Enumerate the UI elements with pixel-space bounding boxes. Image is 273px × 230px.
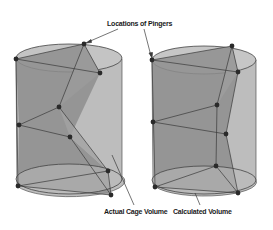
pinger-icon	[153, 185, 158, 190]
label-actual-cage-volume: Actual Cage Volume	[104, 208, 168, 216]
pinger-icon	[98, 71, 103, 76]
label-locations-of-pingers: Locations of Pingers	[107, 20, 173, 28]
pinger-icon	[151, 120, 156, 125]
pinger-icon	[236, 70, 241, 75]
pinger-icon	[106, 169, 111, 174]
pinger-icon	[214, 164, 219, 169]
left-cylinder-actual-cage	[14, 42, 125, 198]
pinger-icon	[16, 184, 21, 189]
pinger-icon	[17, 123, 22, 128]
arrowhead-icon	[86, 40, 92, 44]
arrowhead-icon	[149, 53, 153, 59]
pingers-arrow-left	[88, 29, 118, 42]
pinger-icon	[109, 193, 114, 198]
pinger-icon	[230, 44, 235, 49]
pinger-icon	[82, 42, 87, 47]
label-calculated-volume: Calculated Volume	[173, 208, 232, 215]
right-cylinder-calculated	[150, 44, 257, 196]
pinger-icon	[224, 132, 229, 137]
pinger-icon	[236, 191, 241, 196]
pingers-arrow-right	[144, 29, 151, 56]
cage-volume-diagram: Locations of Pingers Actual Cage Volume …	[0, 0, 273, 230]
pinger-icon	[68, 135, 73, 140]
pinger-icon	[215, 103, 220, 108]
pinger-icon	[14, 57, 19, 62]
pinger-icon	[57, 105, 62, 110]
